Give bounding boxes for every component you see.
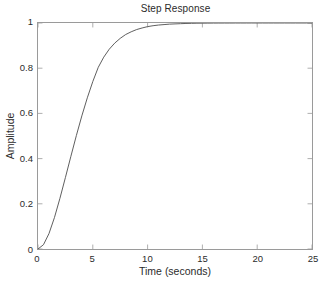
caption-remnant: [0, 282, 331, 293]
step-response-figure: Step Response Amplitude 00.20.40.60.81 0…: [0, 0, 331, 295]
axis-ticks: [38, 23, 312, 249]
x-axis-label: Time (seconds): [37, 265, 313, 277]
step-response-curve: [38, 23, 312, 249]
x-tick-label: 10: [127, 254, 167, 264]
plot-area: [37, 22, 313, 250]
x-tick-label: 0: [17, 254, 57, 264]
x-tick-label: 25: [293, 254, 331, 264]
plot-svg: [38, 23, 312, 249]
x-tick-label: 5: [72, 254, 112, 264]
x-tick-label: 20: [238, 254, 278, 264]
x-tick-label: 15: [183, 254, 223, 264]
